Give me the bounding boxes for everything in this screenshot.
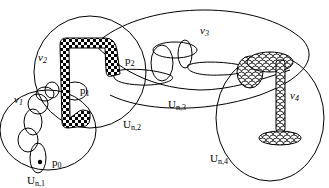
- label-nu2: ν2: [38, 51, 47, 65]
- label-nu4: ν4: [290, 89, 299, 103]
- label-p2: p2: [125, 54, 135, 68]
- label-p0: p0: [52, 156, 62, 170]
- path-nu2: [60, 38, 120, 128]
- label-u-n3: Un,3: [168, 98, 186, 112]
- label-u-n1: Un,1: [27, 174, 45, 188]
- label-nu3: ν3: [200, 24, 209, 38]
- point-p0-dot: [38, 160, 42, 164]
- label-p1: p1: [80, 84, 90, 98]
- diagram-figure: p0 p1 p2 ν1 ν2 ν3 ν4 Un,1 Un,2 Un,3 Un,4: [0, 0, 329, 188]
- label-nu1: ν1: [14, 93, 23, 107]
- label-u-n2: Un,2: [123, 118, 141, 132]
